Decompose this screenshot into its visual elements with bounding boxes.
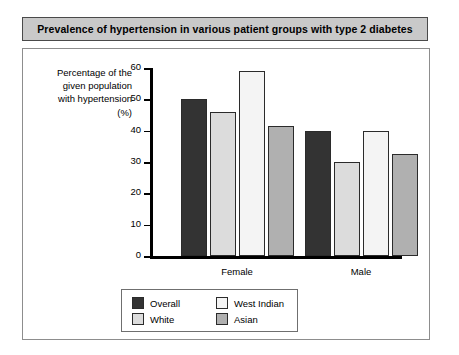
y-tick-label-50: 50 bbox=[130, 92, 141, 103]
category-label-male: Male bbox=[305, 266, 418, 277]
y-tick-30: 30 bbox=[144, 162, 150, 164]
bar-female-west-indian bbox=[239, 71, 265, 256]
bar-male-asian bbox=[392, 154, 418, 256]
legend-label-overall: Overall bbox=[150, 298, 180, 309]
y-tick-label-20: 20 bbox=[130, 186, 141, 197]
bar-male-west-indian bbox=[363, 131, 389, 256]
y-tick-50: 50 bbox=[144, 99, 150, 101]
y-axis-title-line-4: (%) bbox=[28, 106, 132, 119]
chart-legend: OverallWest IndianWhiteAsian bbox=[121, 289, 298, 332]
legend-swatch-asian bbox=[216, 313, 228, 325]
y-tick-20: 20 bbox=[144, 193, 150, 195]
legend-swatch-overall bbox=[132, 297, 144, 309]
legend-label-white: White bbox=[150, 314, 174, 325]
chart-figure: Prevalence of hypertension in various pa… bbox=[0, 0, 459, 355]
legend-item-west-indian: West Indian bbox=[216, 297, 300, 309]
y-tick-60: 60 bbox=[144, 68, 150, 70]
y-tick-label-40: 40 bbox=[130, 124, 141, 135]
y-tick-10: 10 bbox=[144, 225, 150, 227]
y-tick-label-10: 10 bbox=[130, 218, 141, 229]
category-label-female: Female bbox=[181, 266, 294, 277]
figure-title-bar: Prevalence of hypertension in various pa… bbox=[22, 17, 428, 41]
legend-item-asian: Asian bbox=[216, 313, 300, 325]
y-axis-title-line-2: given population bbox=[28, 79, 132, 92]
bar-male-white bbox=[334, 162, 360, 256]
plot-area: 0102030405060 FemaleMale bbox=[150, 68, 402, 262]
legend-label-west-indian: West Indian bbox=[234, 298, 284, 309]
y-tick-label-0: 0 bbox=[136, 249, 141, 260]
legend-swatch-west-indian bbox=[216, 297, 228, 309]
y-axis-title: Percentage of the given population with … bbox=[28, 66, 132, 119]
bars-layer bbox=[153, 68, 402, 256]
y-tick-label-30: 30 bbox=[130, 155, 141, 166]
y-tick-label-60: 60 bbox=[130, 61, 141, 72]
y-axis-title-line-1: Percentage of the bbox=[28, 66, 132, 79]
bar-male-overall bbox=[305, 131, 331, 256]
legend-label-asian: Asian bbox=[234, 314, 258, 325]
bar-female-overall bbox=[181, 99, 207, 256]
x-axis-line bbox=[150, 256, 402, 259]
bar-female-white bbox=[210, 112, 236, 256]
legend-grid: OverallWest IndianWhiteAsian bbox=[132, 295, 297, 327]
legend-swatch-white bbox=[132, 313, 144, 325]
y-tick-40: 40 bbox=[144, 131, 150, 133]
legend-item-overall: Overall bbox=[132, 297, 216, 309]
figure-title: Prevalence of hypertension in various pa… bbox=[37, 23, 412, 35]
y-axis-title-line-3: with hypertension bbox=[28, 92, 132, 105]
legend-item-white: White bbox=[132, 313, 216, 325]
y-tick-0: 0 bbox=[144, 256, 150, 258]
bar-female-asian bbox=[268, 126, 294, 256]
